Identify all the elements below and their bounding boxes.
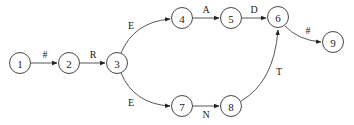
- node-9: 9: [323, 32, 344, 53]
- edge-8-6: [241, 30, 278, 101]
- node-label-1: 1: [17, 58, 23, 70]
- edge-label-1-2: #: [43, 49, 48, 60]
- node-6: 6: [268, 7, 289, 28]
- node-label-5: 5: [228, 13, 234, 25]
- node-1: 1: [10, 53, 31, 74]
- edge-6-9: [285, 26, 321, 42]
- node-8: 8: [221, 96, 242, 117]
- node-7: 7: [172, 96, 193, 117]
- node-label-8: 8: [228, 101, 234, 113]
- node-2: 2: [59, 53, 80, 74]
- edge-label-4-5: A: [202, 4, 210, 15]
- edge-label-2-3: R: [90, 49, 97, 60]
- node-label-6: 6: [275, 12, 281, 24]
- state-diagram: # R E A D # E N T 1 2 3: [0, 0, 354, 125]
- node-5: 5: [221, 8, 242, 29]
- node-label-3: 3: [114, 58, 120, 70]
- node-3: 3: [107, 53, 128, 74]
- node-label-7: 7: [179, 101, 185, 113]
- nodes: 1 2 3 4 5 6 7: [10, 7, 344, 117]
- edge-label-8-6: T: [276, 66, 282, 77]
- node-label-4: 4: [179, 13, 185, 25]
- edge-label-3-7: E: [128, 97, 134, 108]
- edge-label-5-6: D: [250, 4, 257, 15]
- edge-label-3-4: E: [128, 20, 134, 31]
- edge-label-7-8: N: [202, 109, 209, 120]
- node-4: 4: [172, 8, 193, 29]
- diagram-svg: # R E A D # E N T 1 2 3: [0, 0, 354, 125]
- node-label-2: 2: [66, 58, 72, 70]
- edge-label-6-9: #: [306, 25, 311, 36]
- node-label-9: 9: [330, 37, 336, 49]
